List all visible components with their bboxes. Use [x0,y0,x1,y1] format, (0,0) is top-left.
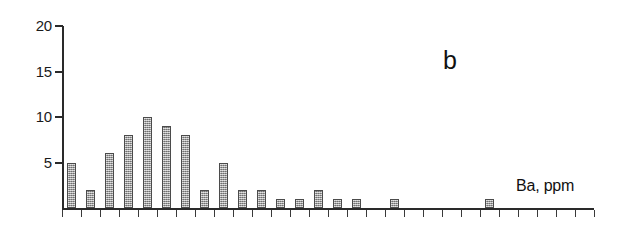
histogram-bar [219,163,228,209]
histogram-bar [333,199,342,208]
histogram-bar [181,135,190,208]
histogram-bar [143,117,152,208]
histogram-bar [67,163,76,209]
histogram-bar [162,126,171,208]
histogram-bar [86,190,95,208]
histogram-bar [314,190,323,208]
histogram-bar [238,190,247,208]
histogram-bar [352,199,361,208]
histogram-bar [105,153,114,208]
histogram-bar [390,199,399,208]
x-axis-title: Ba, ppm [516,178,574,194]
histogram-bar [276,199,285,208]
histogram-bar [295,199,304,208]
histogram-bar [485,199,494,208]
panel-label: b [443,48,457,73]
histogram-figure: 2015105 b Ba, ppm [0,0,622,248]
histogram-bar [124,135,133,208]
histogram-bar [257,190,266,208]
histogram-bar [200,190,209,208]
bars-layer [0,0,622,248]
